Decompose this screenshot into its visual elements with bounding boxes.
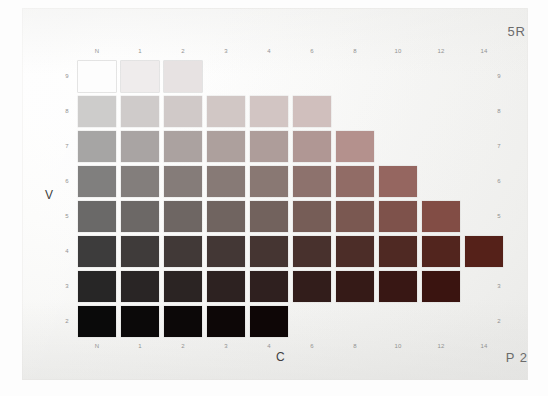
color-chip-v7-c3 <box>207 131 245 162</box>
value-tick-left-6: 6 <box>60 178 74 184</box>
color-chip-v5-c0 <box>78 201 116 232</box>
color-chip-v5-c8 <box>336 201 374 232</box>
color-chip-v4-c12 <box>422 236 460 267</box>
chroma-tick-bottom-3: 3 <box>207 343 245 349</box>
color-chip-v7-c8 <box>336 131 374 162</box>
value-tick-left-5: 5 <box>60 213 74 219</box>
value-tick-right-3: 3 <box>492 283 506 289</box>
color-chip-v5-c1 <box>121 201 159 232</box>
chroma-axis-label: C <box>276 350 285 364</box>
value-tick-right-8: 8 <box>492 108 506 114</box>
color-chip-v7-c1 <box>121 131 159 162</box>
color-chip-v9-c2 <box>164 61 202 92</box>
color-chip-v6-c3 <box>207 166 245 197</box>
chroma-tick-top-6: 6 <box>293 48 331 54</box>
color-chip-v6-c10 <box>379 166 417 197</box>
chroma-tick-top-8: 8 <box>336 48 374 54</box>
color-chip-v7-c6 <box>293 131 331 162</box>
value-tick-right-5: 5 <box>492 213 506 219</box>
color-chip-v4-c6 <box>293 236 331 267</box>
color-chip-v8-c2 <box>164 96 202 127</box>
color-chip-v4-c10 <box>379 236 417 267</box>
color-chip-v7-c0 <box>78 131 116 162</box>
chroma-tick-top-10: 10 <box>379 48 417 54</box>
munsell-chart-photo: NN11223344668810101212141499887766554433… <box>0 0 548 396</box>
page-number-label: P 2 <box>506 350 528 365</box>
color-chip-v2-c2 <box>164 306 202 337</box>
color-chip-v7-c4 <box>250 131 288 162</box>
chroma-tick-top-N: N <box>78 48 116 54</box>
color-chip-v8-c6 <box>293 96 331 127</box>
color-chip-v3-c12 <box>422 271 460 302</box>
color-chip-v4-c0 <box>78 236 116 267</box>
value-tick-right-6: 6 <box>492 178 506 184</box>
value-tick-left-3: 3 <box>60 283 74 289</box>
color-chip-v3-c3 <box>207 271 245 302</box>
color-chip-v8-c3 <box>207 96 245 127</box>
value-tick-left-2: 2 <box>60 318 74 324</box>
chip-grid: NN11223344668810101212141499887766554433… <box>0 0 548 396</box>
color-chip-v8-c1 <box>121 96 159 127</box>
color-chip-v2-c3 <box>207 306 245 337</box>
chroma-tick-top-1: 1 <box>121 48 159 54</box>
chroma-tick-bottom-8: 8 <box>336 343 374 349</box>
color-chip-v4-c2 <box>164 236 202 267</box>
value-tick-left-9: 9 <box>60 73 74 79</box>
color-chip-v5-c12 <box>422 201 460 232</box>
color-chip-v6-c4 <box>250 166 288 197</box>
color-chip-v2-c4 <box>250 306 288 337</box>
chroma-tick-bottom-14: 14 <box>465 343 503 349</box>
color-chip-v4-c14 <box>465 236 503 267</box>
color-chip-v5-c10 <box>379 201 417 232</box>
color-chip-v5-c2 <box>164 201 202 232</box>
color-chip-v3-c1 <box>121 271 159 302</box>
color-chip-v3-c4 <box>250 271 288 302</box>
chroma-tick-bottom-10: 10 <box>379 343 417 349</box>
color-chip-v2-c1 <box>121 306 159 337</box>
hue-label: 5R <box>507 24 526 39</box>
color-chip-v3-c2 <box>164 271 202 302</box>
color-chip-v7-c2 <box>164 131 202 162</box>
color-chip-v3-c8 <box>336 271 374 302</box>
color-chip-v5-c4 <box>250 201 288 232</box>
value-tick-left-8: 8 <box>60 108 74 114</box>
chroma-tick-top-2: 2 <box>164 48 202 54</box>
chroma-tick-bottom-2: 2 <box>164 343 202 349</box>
value-tick-left-4: 4 <box>60 248 74 254</box>
color-chip-v6-c8 <box>336 166 374 197</box>
color-chip-v6-c6 <box>293 166 331 197</box>
color-chip-v8-c0 <box>78 96 116 127</box>
value-tick-right-7: 7 <box>492 143 506 149</box>
color-chip-v3-c6 <box>293 271 331 302</box>
value-tick-right-9: 9 <box>492 73 506 79</box>
chroma-tick-bottom-1: 1 <box>121 343 159 349</box>
color-chip-v8-c4 <box>250 96 288 127</box>
chroma-tick-top-14: 14 <box>465 48 503 54</box>
color-chip-v2-c0 <box>78 306 116 337</box>
color-chip-v3-c0 <box>78 271 116 302</box>
chroma-tick-bottom-4: 4 <box>250 343 288 349</box>
color-chip-v5-c6 <box>293 201 331 232</box>
color-chip-v5-c3 <box>207 201 245 232</box>
value-tick-right-2: 2 <box>492 318 506 324</box>
value-axis-label: V <box>45 188 53 202</box>
chroma-tick-top-4: 4 <box>250 48 288 54</box>
color-chip-v4-c1 <box>121 236 159 267</box>
color-chip-v3-c10 <box>379 271 417 302</box>
chroma-tick-top-12: 12 <box>422 48 460 54</box>
value-tick-left-7: 7 <box>60 143 74 149</box>
color-chip-v6-c2 <box>164 166 202 197</box>
color-chip-v4-c8 <box>336 236 374 267</box>
color-chip-v9-c1 <box>121 61 159 92</box>
chroma-tick-bottom-N: N <box>78 343 116 349</box>
chroma-tick-bottom-12: 12 <box>422 343 460 349</box>
color-chip-v4-c4 <box>250 236 288 267</box>
color-chip-v4-c3 <box>207 236 245 267</box>
chroma-tick-bottom-6: 6 <box>293 343 331 349</box>
color-chip-v9-c0 <box>78 61 116 92</box>
color-chip-v6-c0 <box>78 166 116 197</box>
color-chip-v6-c1 <box>121 166 159 197</box>
chroma-tick-top-3: 3 <box>207 48 245 54</box>
